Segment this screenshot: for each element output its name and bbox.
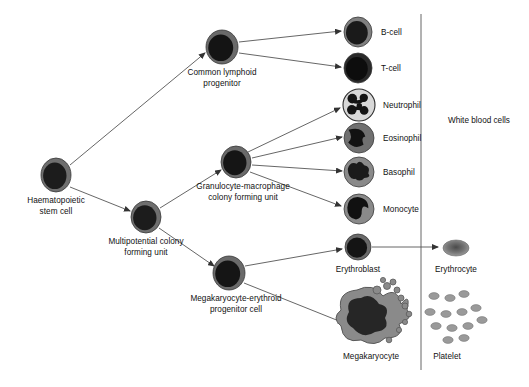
label-common-lymphoid-progenitor-line1: Common lymphoid [187, 68, 256, 79]
label-haematopoietic-stem-cell-line2: stem cell [27, 207, 85, 218]
cell-haematopoietic-stem-cell[interactable] [41, 158, 71, 192]
label-multipotential-colony-forming-unit-line2: forming unit [108, 248, 183, 259]
label-erythroblast: Erythroblast [336, 265, 380, 276]
label-basophil: Basophil [383, 168, 415, 179]
arrow-hsc-to-clp [70, 53, 205, 165]
cell-platelet[interactable] [425, 291, 487, 344]
cell-granulocyte-macrophage-colony-forming-unit[interactable] [221, 146, 251, 178]
label-megakaryocyte: Megakaryocyte [343, 352, 399, 363]
label-haematopoietic-stem-cell: Haematopoieticstem cell [27, 196, 85, 217]
cell-monocyte[interactable] [344, 194, 374, 224]
label-b-cell: B-cell [381, 28, 402, 39]
label-neutrophil: Neutrophil [383, 101, 421, 112]
label-multipotential-colony-forming-unit: Multipotential colonyforming unit [108, 237, 183, 258]
arrow-mep-to-erythroblast [245, 249, 342, 266]
label-common-lymphoid-progenitor: Common lymphoidprogenitor [187, 68, 256, 89]
arrow-clp-to-tcell [239, 53, 341, 67]
cell-megakaryocyte[interactable] [336, 277, 412, 343]
white-blood-cells-bracket-label: White blood cells [448, 116, 510, 125]
label-platelet: Platelet [433, 352, 461, 363]
label-multipotential-colony-forming-unit-line1: Multipotential colony [108, 237, 183, 248]
label-megakaryocyte-erythroid-progenitor-cell: Megakaryocyte-erythroidprogenitor cell [190, 294, 281, 315]
cell-erythrocyte[interactable] [443, 240, 469, 256]
label-granulocyte-macrophage-colony-forming-unit: Granulocyte-macrophagecolony forming uni… [196, 182, 290, 203]
cell-eosinophil[interactable] [344, 123, 374, 153]
arrow-gmcfu-to-basophil [252, 165, 342, 171]
cell-common-lymphoid-progenitor[interactable] [206, 30, 238, 64]
cell-basophil[interactable] [344, 157, 374, 187]
arrow-gmcfu-to-neutrophil [248, 108, 340, 152]
label-granulocyte-macrophage-colony-forming-unit-line2: colony forming unit [196, 193, 290, 204]
cell-megakaryocyte-erythroid-progenitor-cell[interactable] [213, 256, 245, 290]
label-t-cell: T-cell [381, 64, 401, 75]
label-megakaryocyte-erythroid-progenitor-cell-line2: progenitor cell [190, 305, 281, 316]
cell-neutrophil[interactable] [343, 89, 375, 121]
label-monocyte: Monocyte [383, 205, 419, 216]
cell-erythroblast[interactable] [345, 234, 371, 260]
label-common-lymphoid-progenitor-line2: progenitor [187, 79, 256, 90]
haematopoiesis-diagram: Haematopoieticstem cellMultipotential co… [0, 0, 529, 387]
label-haematopoietic-stem-cell-line1: Haematopoietic [27, 196, 85, 207]
label-eosinophil: Eosinophil [383, 134, 421, 145]
label-megakaryocyte-erythroid-progenitor-cell-line1: Megakaryocyte-erythroid [190, 294, 281, 305]
arrow-gmcfu-to-eosinophil [252, 137, 342, 158]
arrow-clp-to-bcell [239, 31, 341, 42]
cell-t-cell[interactable] [344, 53, 372, 83]
label-erythrocyte: Erythrocyte [435, 265, 477, 276]
cell-multipotential-colony-forming-unit[interactable] [131, 201, 161, 233]
cell-b-cell[interactable] [344, 17, 372, 47]
label-granulocyte-macrophage-colony-forming-unit-line1: Granulocyte-macrophage [196, 182, 290, 193]
